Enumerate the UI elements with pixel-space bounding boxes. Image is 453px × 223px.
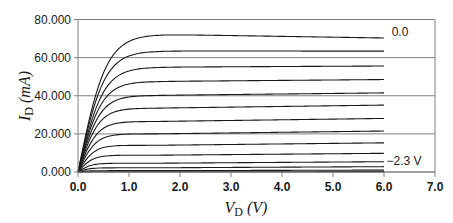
- curve-label: −2.3 V: [387, 154, 422, 168]
- x-tick-label: 7.0: [427, 180, 444, 194]
- chart: 0.00020.00040.00060.00080.000 0.01.02.03…: [0, 0, 453, 223]
- y-axis-title: ID (mA): [16, 71, 36, 122]
- curve-label: 0.0: [392, 25, 409, 39]
- x-tick-label: 5.0: [325, 180, 342, 194]
- x-tick-label: 4.0: [274, 180, 291, 194]
- x-tick-label: 3.0: [223, 180, 240, 194]
- x-tick-label: 6.0: [376, 180, 393, 194]
- x-tick-labels: 0.01.02.03.04.05.06.07.0: [70, 180, 444, 194]
- annotations: 0.0−2.3 V: [387, 25, 422, 169]
- curves: [78, 35, 384, 172]
- x-tick-label: 2.0: [172, 180, 189, 194]
- y-tick-labels: 0.00020.00040.00060.00080.000: [34, 13, 71, 180]
- y-tick-label: 0.000: [41, 165, 71, 179]
- y-tick-label: 40.000: [34, 89, 71, 103]
- y-tick-label: 80.000: [34, 13, 71, 27]
- gridlines: [78, 20, 435, 173]
- x-tick-label: 1.0: [121, 180, 138, 194]
- x-tick-label: 0.0: [70, 180, 87, 194]
- y-tick-label: 60.000: [34, 51, 71, 65]
- y-tick-label: 20.000: [34, 127, 71, 141]
- id-vd-curve: [78, 131, 384, 172]
- x-axis-title: VD (V): [225, 199, 268, 219]
- id-vd-curve: [78, 35, 384, 172]
